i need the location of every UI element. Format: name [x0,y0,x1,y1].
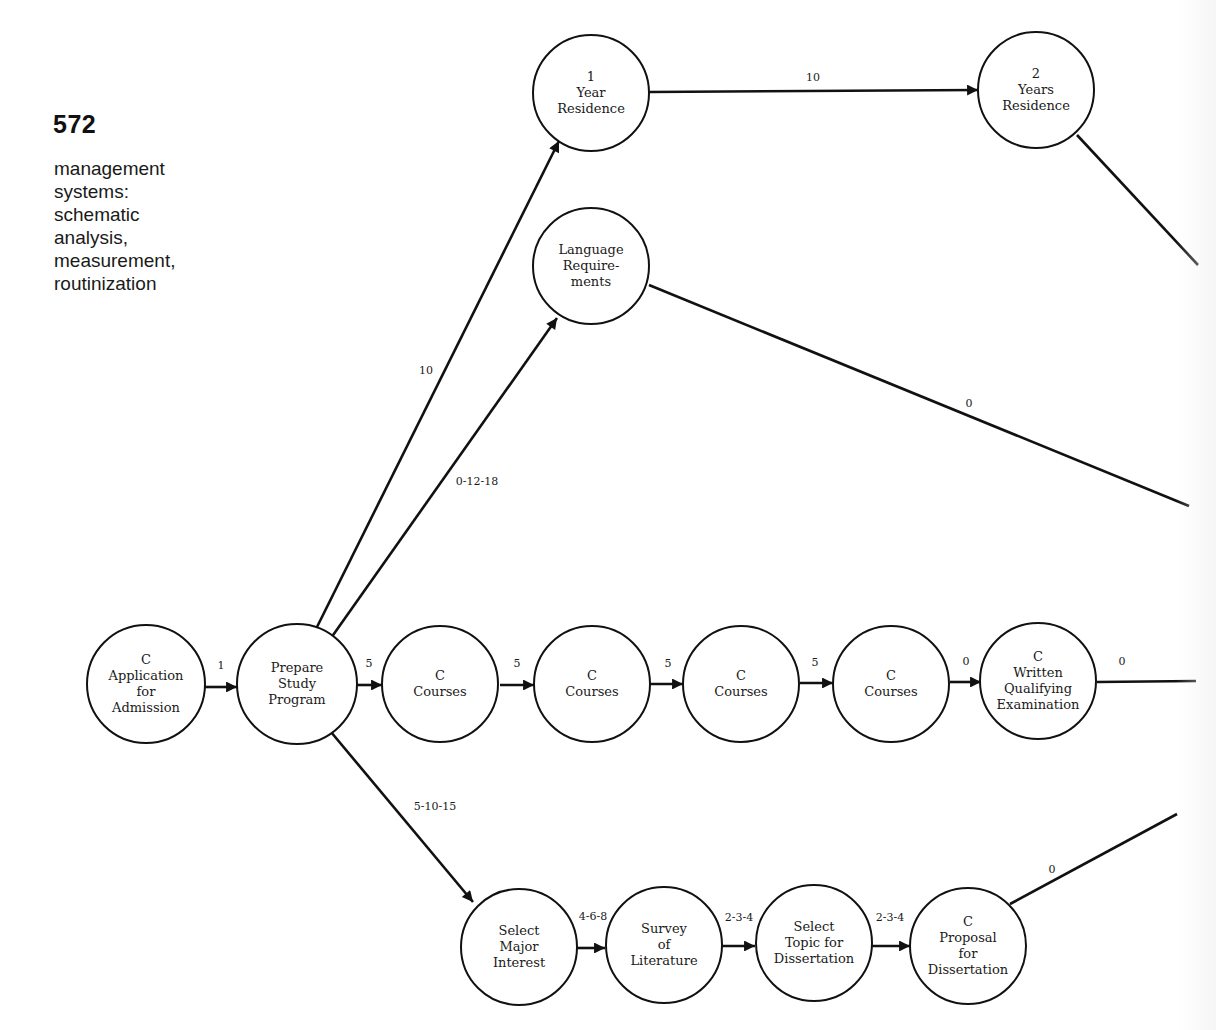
connector-line [649,285,1189,506]
connector-line [1010,814,1177,904]
node-courses4: CCourses [833,626,949,742]
node-label-line: Written [1013,665,1063,680]
node-prepare: PrepareStudyProgram [237,624,357,744]
node-label-line: Examination [997,697,1080,712]
edge-application-to-prepare: 1 [205,659,237,687]
edge-duration-label: 0-12-18 [456,475,498,488]
page-edge-shadow [1176,0,1216,1030]
node-label-line: C [886,668,896,683]
node-label-line: Select [794,919,836,934]
edge-survey-to-select-topic: 2-3-4 [722,911,755,946]
pert-network-diagram: 1555500100-12-181005-10-154-6-82-3-42-3-… [0,0,1216,1030]
edge-duration-label: 5 [514,657,521,670]
node-courses3: CCourses [683,626,799,742]
edges-layer: 1555500100-12-181005-10-154-6-82-3-42-3-… [205,71,1198,948]
node-label-line: Year [575,85,606,100]
edge-duration-label: 5 [665,657,672,670]
arrow-line [331,318,557,638]
node-survey: SurveyofLiterature [606,887,722,1003]
node-label-line: C [1033,649,1043,664]
node-label-line: Prepare [271,660,324,675]
node-year1: 1YearResidence [533,35,649,151]
edge-duration-label: 0 [963,655,970,668]
node-label-line: of [658,937,672,952]
edge-courses3-to-courses4: 5 [800,656,833,683]
edge-prepare-to-year1: 10 [315,141,559,631]
node-select-major: SelectMajorInterest [461,889,577,1005]
node-label-line: Courses [714,684,767,699]
edge-duration-label: 10 [806,71,820,84]
edge-prepare-to-language: 0-12-18 [331,318,557,638]
edge-courses2-to-courses3: 5 [650,657,683,684]
node-label-line: Qualifying [1004,681,1072,696]
edge-duration-label: 2-3-4 [725,911,753,924]
edge-duration-label: 5 [366,657,373,670]
node-label-line: Study [278,676,317,691]
edge-duration-label: 1 [218,659,225,672]
node-label-line: Interest [493,955,546,970]
edge-duration-label: 2-3-4 [876,911,904,924]
node-label-line: Literature [630,953,697,968]
edge-courses1-to-courses2: 5 [500,657,534,685]
node-label-line: for [959,946,979,961]
node-proposal: CProposalforDissertation [910,888,1026,1004]
node-label-line: Dissertation [928,962,1009,977]
node-label-line: Courses [565,684,618,699]
edge-select-major-to-survey: 4-6-8 [577,910,607,948]
edge-duration-label: 0 [1119,655,1126,668]
edge-prepare-to-courses1: 5 [357,657,382,685]
node-written-exam: CWrittenQualifyingExamination [980,623,1096,739]
edge-select-topic-to-proposal: 2-3-4 [872,911,910,946]
edge-prepare-to-select-major: 5-10-15 [331,732,473,902]
node-label-line: Topic for [785,935,844,950]
node-courses2: CCourses [534,626,650,742]
node-language: LanguageRequire-ments [533,208,649,324]
node-label-line: C [587,668,597,683]
node-label-line: C [736,668,746,683]
node-label-line: Courses [864,684,917,699]
node-years2: 2YearsResidence [978,32,1094,148]
node-label-line: Residence [1002,98,1070,113]
node-label-line: C [435,668,445,683]
node-label-line: Program [268,692,325,707]
arrow-line [331,732,473,902]
node-label-line: ments [571,274,611,289]
node-application: CApplicationforAdmission [87,625,205,743]
node-label-line: Major [499,939,539,954]
node-label-line: Language [558,242,624,257]
edge-language-to-offpage: 0 [649,285,1189,506]
edge-duration-label: 0 [966,397,973,410]
edge-courses4-to-written-exam: 0 [950,655,981,682]
node-select-topic: SelectTopic forDissertation [756,885,872,1001]
node-label-line: Require- [563,258,620,273]
node-label-line: for [137,684,157,699]
node-label-line: Proposal [939,930,997,945]
edge-year1-to-years2: 10 [649,71,978,92]
arrow-line [649,90,978,92]
nodes-layer: CApplicationforAdmissionPrepareStudyProg… [87,32,1096,1005]
edge-duration-label: 10 [419,364,433,377]
edge-proposal-to-offpage: 0 [1010,814,1177,904]
arrow-line [315,141,559,631]
node-label-line: Application [108,668,185,683]
node-label-line: Courses [413,684,466,699]
node-label-line: C [141,652,151,667]
node-label-line: Admission [111,700,181,715]
node-label-line: Dissertation [774,951,855,966]
node-label-line: C [963,914,973,929]
edge-duration-label: 5 [812,656,819,669]
edge-duration-label: 4-6-8 [579,910,607,923]
node-label-line: 1 [587,69,595,84]
edge-duration-label: 0 [1049,863,1056,876]
node-courses1: CCourses [382,626,498,742]
node-label-line: Survey [641,921,688,936]
node-label-line: Residence [557,101,625,116]
node-label-line: Select [499,923,541,938]
edge-duration-label: 5-10-15 [414,800,456,813]
node-label-line: Years [1017,82,1054,97]
node-label-line: 2 [1032,66,1040,81]
